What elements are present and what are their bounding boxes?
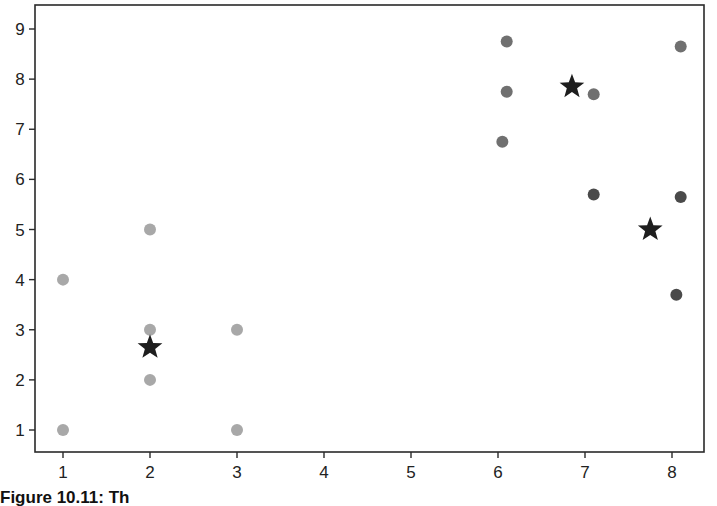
y-tick-label: 5 [15,221,24,240]
x-tick-label: 8 [667,463,676,482]
data-point [231,424,243,436]
x-tick-label: 5 [406,463,415,482]
y-tick-label: 2 [15,371,24,390]
data-point [501,86,513,98]
data-point [588,88,600,100]
x-tick-label: 6 [493,463,502,482]
data-point [675,41,687,53]
data-point [57,424,69,436]
scatter-chart: 123456789 12345678 [0,0,717,506]
x-tick-label: 7 [580,463,589,482]
x-tick-label: 1 [58,463,67,482]
data-point [231,324,243,336]
x-axis: 12345678 [58,452,676,482]
data-point [144,224,156,236]
x-tick-label: 3 [232,463,241,482]
data-point [501,36,513,48]
plot-frame [35,5,704,452]
y-tick-label: 8 [15,70,24,89]
data-point [144,374,156,386]
y-tick-label: 3 [15,321,24,340]
data-point [57,274,69,286]
y-tick-label: 7 [15,120,24,139]
data-point [675,191,687,203]
data-point [496,136,508,148]
data-point [144,324,156,336]
figure-caption: Figure 10.11: Th [0,488,129,506]
x-tick-label: 2 [145,463,154,482]
y-tick-label: 4 [15,271,24,290]
y-tick-label: 6 [15,170,24,189]
y-tick-label: 9 [15,20,24,39]
x-tick-label: 4 [319,463,328,482]
y-axis: 123456789 [15,20,35,440]
data-point [670,289,682,301]
y-tick-label: 1 [15,421,24,440]
data-point [588,188,600,200]
